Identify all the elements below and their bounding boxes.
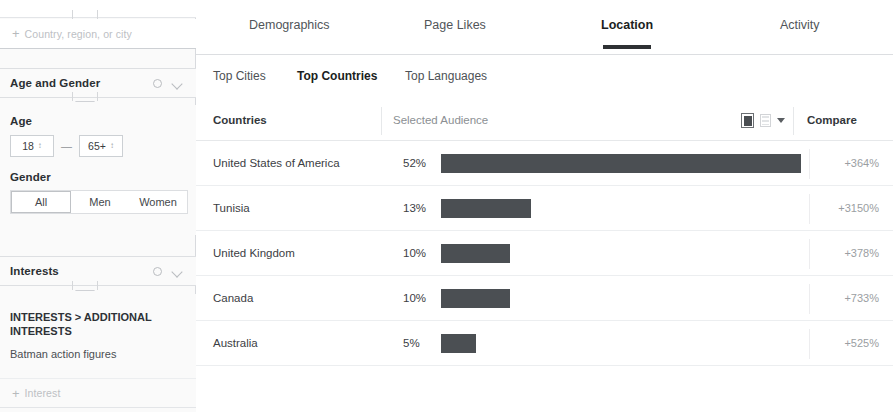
location-panel: Demographics Page Likes Location Activit… <box>196 0 893 412</box>
stepper-arrows-icon: ↕ <box>110 143 114 149</box>
header-divider <box>381 107 382 135</box>
stepper-arrows-icon: ↕ <box>38 143 42 149</box>
column-header-selected-audience[interactable]: Selected Audience <box>393 114 488 126</box>
subtab-top-languages[interactable]: Top Languages <box>405 69 487 83</box>
age-max-stepper[interactable]: 65+ ↕ <box>79 135 123 157</box>
audience-percent: 10% <box>403 247 426 259</box>
table-row[interactable]: United States of America52%+364% <box>196 141 893 186</box>
chevron-down-icon[interactable] <box>173 79 182 88</box>
chevron-down-icon[interactable] <box>777 118 785 123</box>
subtab-top-cities[interactable]: Top Cities <box>213 69 266 83</box>
audience-bar <box>441 334 476 353</box>
sidebar-top-edge <box>0 0 196 18</box>
table-icon[interactable] <box>760 114 771 127</box>
country-name: Tunisia <box>213 202 250 214</box>
row-divider <box>809 149 810 179</box>
sidebar-notch-age <box>72 92 98 101</box>
compare-value: +378% <box>844 247 879 259</box>
add-interest-field[interactable]: + Interest <box>0 378 196 408</box>
age-label: Age <box>10 115 186 127</box>
location-subtabs: Top Cities Top Countries Top Languages <box>196 55 893 101</box>
subtab-top-countries[interactable]: Top Countries <box>297 69 377 83</box>
column-header-compare[interactable]: Compare <box>807 114 857 126</box>
section-body-interests: INTERESTS > ADDITIONAL INTERESTS Batman … <box>0 294 196 412</box>
section-body-age-gender: Age 18 ↕ — 65+ ↕ Gender All Men W <box>0 105 196 235</box>
compare-value: +525% <box>844 337 879 349</box>
audience-bar <box>441 154 801 173</box>
section-title-interests: Interests <box>0 265 59 277</box>
add-interest-placeholder: Interest <box>25 387 61 399</box>
tab-page-likes[interactable]: Page Likes <box>424 18 486 41</box>
interests-breadcrumb: INTERESTS > ADDITIONAL INTERESTS <box>10 310 184 338</box>
chevron-down-icon[interactable] <box>173 267 182 276</box>
sidebar-notch-top <box>72 10 98 19</box>
table-row[interactable]: Australia5%+525% <box>196 321 893 366</box>
audience-percent: 13% <box>403 202 426 214</box>
header-divider <box>793 107 794 135</box>
chart-view-controls <box>741 113 785 128</box>
audience-percent: 5% <box>403 337 420 349</box>
table-header-row: Countries Selected Audience Compare <box>196 101 893 141</box>
gender-option-all[interactable]: All <box>11 191 71 213</box>
sidebar-notch-interests <box>72 281 98 290</box>
row-divider <box>809 239 810 269</box>
column-header-countries[interactable]: Countries <box>213 114 267 126</box>
audience-bar <box>441 199 531 218</box>
gear-icon[interactable] <box>153 79 162 88</box>
location-filter-field[interactable]: + Country, region, or city <box>0 19 196 49</box>
audience-bar <box>441 289 510 308</box>
table-row[interactable]: Canada10%+733% <box>196 276 893 321</box>
country-name: Australia <box>213 337 258 349</box>
gender-segmented-control: All Men Women <box>10 190 188 214</box>
plus-icon: + <box>12 387 20 400</box>
table-row[interactable]: United Kingdom10%+378% <box>196 231 893 276</box>
plus-icon: + <box>12 27 20 40</box>
interest-item[interactable]: Batman action figures <box>10 348 184 360</box>
tab-demographics[interactable]: Demographics <box>249 18 330 41</box>
country-name: United Kingdom <box>213 247 295 259</box>
filters-sidebar: + Country, region, or city Age and Gende… <box>0 0 196 412</box>
age-min-value: 18 <box>22 140 34 152</box>
compare-value: +364% <box>844 157 879 169</box>
age-max-value: 65+ <box>88 140 106 152</box>
bar-chart-icon[interactable] <box>741 113 754 128</box>
table-row[interactable]: Tunisia13%+3150% <box>196 186 893 231</box>
compare-value: +733% <box>844 292 879 304</box>
audience-insights-window: + Country, region, or city Age and Gende… <box>0 0 893 412</box>
primary-tabs: Demographics Page Likes Location Activit… <box>196 0 893 55</box>
audience-bar <box>441 244 510 263</box>
audience-percent: 10% <box>403 292 426 304</box>
row-divider <box>809 329 810 359</box>
age-range-dash: — <box>61 140 72 152</box>
gender-option-women[interactable]: Women <box>129 191 187 213</box>
age-min-stepper[interactable]: 18 ↕ <box>10 135 54 157</box>
gear-icon[interactable] <box>153 267 162 276</box>
location-filter-placeholder: Country, region, or city <box>25 28 132 40</box>
gender-option-men[interactable]: Men <box>71 191 129 213</box>
compare-value: +3150% <box>838 202 879 214</box>
country-name: United States of America <box>213 157 340 169</box>
row-divider <box>809 194 810 224</box>
gender-label: Gender <box>10 171 186 183</box>
tab-activity[interactable]: Activity <box>780 18 820 41</box>
row-divider <box>809 284 810 314</box>
audience-percent: 52% <box>403 157 426 169</box>
country-name: Canada <box>213 292 253 304</box>
tab-location[interactable]: Location <box>601 18 653 41</box>
section-title-age-gender: Age and Gender <box>0 77 100 89</box>
